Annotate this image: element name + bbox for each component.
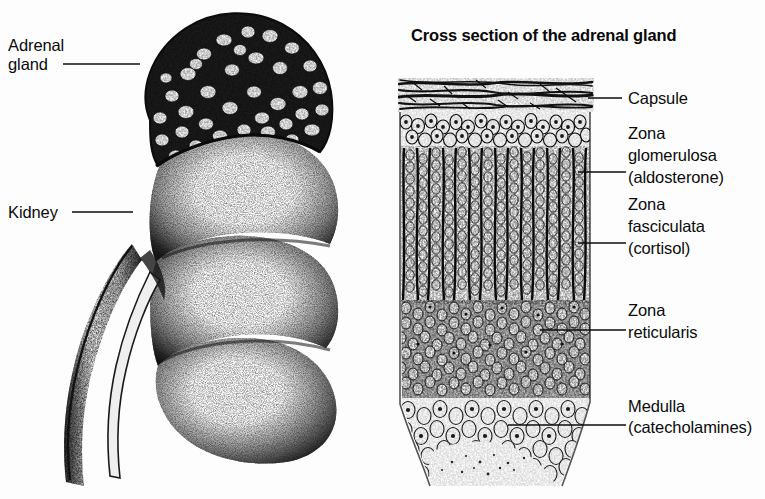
anatomy-figure: Adrenal gland Kidney Cross section of th… [0,0,765,499]
label-reticularis-line2: reticularis [628,322,698,344]
label-reticularis-line1: Zona [628,300,665,322]
label-medulla-line1: Medulla [628,396,685,418]
label-capsule: Capsule [628,88,688,110]
kidney-illustration [55,10,350,495]
label-glomerulosa-line3: (aldosterone) [628,167,724,189]
label-kidney: Kidney [8,202,58,224]
label-glomerulosa-line1: Zona [628,123,665,145]
label-fasciculata-line1: Zona [628,194,665,216]
cortex-medulla-body [396,110,593,490]
label-fasciculata-line3: (cortisol) [628,238,690,260]
capsule-layer [398,78,594,112]
label-fasciculata-line2: fasciculata [628,216,705,238]
label-adrenal-gland-line2: gland [8,54,48,76]
label-glomerulosa-line2: glomerulosa [628,145,717,167]
cross-section-title: Cross section of the adrenal gland [411,26,676,45]
label-medulla-line2: (catecholamines) [628,417,752,439]
ureter [55,235,160,495]
cross-section-illustration [396,78,594,490]
